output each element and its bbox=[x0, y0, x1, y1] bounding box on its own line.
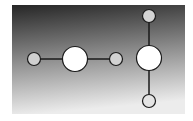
small-atom-node bbox=[143, 10, 156, 23]
large-atom-node bbox=[63, 47, 88, 72]
molecule-diagram bbox=[0, 0, 193, 121]
small-atom-node bbox=[110, 53, 123, 66]
diagram-canvas bbox=[0, 0, 193, 121]
small-atom-node bbox=[143, 95, 156, 108]
large-atom-node bbox=[137, 46, 162, 71]
small-atom-node bbox=[28, 53, 41, 66]
